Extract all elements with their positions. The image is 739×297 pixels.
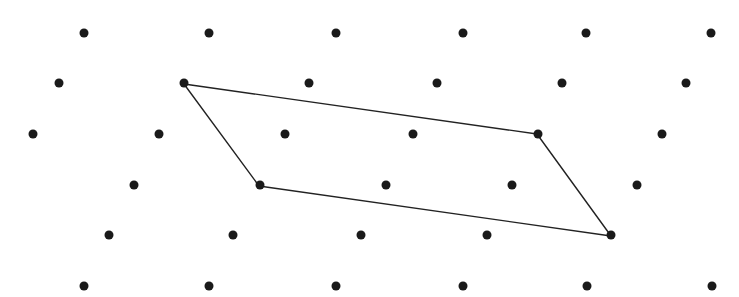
lattice-point (459, 282, 468, 291)
lattice-point (558, 79, 567, 88)
lattice-point (229, 231, 238, 240)
lattice-point (708, 282, 717, 291)
lattice-point (130, 181, 139, 190)
lattice-point (155, 130, 164, 139)
lattice-point (332, 282, 341, 291)
fundamental-parallelogram (184, 84, 611, 236)
lattice-point (658, 130, 667, 139)
lattice-points (29, 29, 717, 291)
lattice-point (607, 231, 616, 240)
lattice-point (80, 282, 89, 291)
lattice-point (180, 79, 189, 88)
lattice-point (409, 130, 418, 139)
lattice-point (459, 29, 468, 38)
lattice-svg (0, 0, 739, 297)
lattice-point (256, 181, 265, 190)
lattice-point (508, 181, 517, 190)
lattice-point (583, 282, 592, 291)
lattice-point (382, 181, 391, 190)
lattice-point (205, 29, 214, 38)
lattice-point (305, 79, 314, 88)
lattice-point (433, 79, 442, 88)
lattice-point (205, 282, 214, 291)
lattice-point (332, 29, 341, 38)
lattice-point (357, 231, 366, 240)
lattice-point (707, 29, 716, 38)
lattice-point (55, 79, 64, 88)
lattice-point (105, 231, 114, 240)
lattice-point (633, 181, 642, 190)
lattice-point (80, 29, 89, 38)
lattice-point (29, 130, 38, 139)
lattice-diagram (0, 0, 739, 297)
lattice-point (534, 130, 543, 139)
lattice-point (582, 29, 591, 38)
lattice-point (281, 130, 290, 139)
lattice-point (483, 231, 492, 240)
lattice-point (682, 79, 691, 88)
